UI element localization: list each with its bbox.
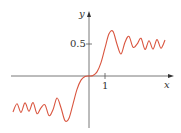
y-axis-arrow-icon [87,11,91,17]
y-tick-label: 0.5 [70,39,86,49]
plot-area [0,0,181,133]
x-axis-label: x [164,80,170,90]
y-axis-label: y [79,9,85,19]
x-axis-arrow-icon [168,74,174,78]
x-tick-label: 1 [102,81,108,91]
